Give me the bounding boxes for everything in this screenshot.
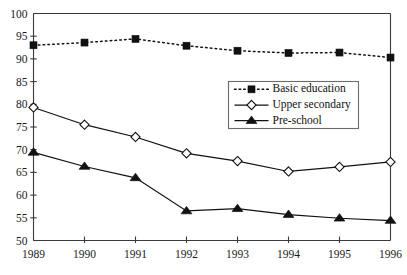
data-point [183, 42, 190, 49]
data-point [387, 54, 394, 61]
y-tick-label: 80 [16, 98, 28, 110]
chart-canvas: 50556065707580859095100 1989199019911992… [0, 0, 407, 275]
y-tick-label: 100 [10, 8, 28, 20]
chart-legend[interactable]: Basic educationUpper secondaryPre-school [229, 82, 359, 129]
x-tick-label: 1994 [277, 248, 300, 260]
data-point [81, 39, 88, 46]
y-tick-label: 60 [16, 189, 28, 201]
y-tick-label: 50 [16, 235, 28, 247]
y-tick-label: 90 [16, 53, 28, 65]
x-tick-label: 1995 [328, 248, 351, 260]
data-point [285, 49, 292, 56]
legend-marker-sample [248, 86, 255, 93]
y-tick-label: 95 [16, 30, 28, 42]
y-tick-label: 55 [16, 212, 28, 224]
y-tick-label: 75 [16, 121, 28, 133]
x-tick-label: 1992 [175, 248, 198, 260]
y-tick-label: 85 [16, 76, 28, 88]
y-tick-label: 70 [16, 144, 28, 156]
x-tick-label: 1989 [22, 248, 45, 260]
chart-background [0, 0, 407, 275]
x-tick-label: 1990 [73, 248, 96, 260]
data-point [234, 47, 241, 54]
x-tick-label: 1993 [226, 248, 249, 260]
legend-entry-label: Pre-school [273, 114, 322, 126]
line-chart: 50556065707580859095100 1989199019911992… [0, 0, 407, 275]
x-tick-label: 1991 [124, 248, 147, 260]
legend-entry-label: Basic education [273, 82, 346, 94]
y-tick-label: 65 [16, 166, 28, 178]
data-point [336, 49, 343, 56]
data-point [132, 35, 139, 42]
legend-entry-label: Upper secondary [273, 98, 351, 111]
x-tick-label: 1996 [379, 248, 402, 260]
data-point [30, 42, 37, 49]
